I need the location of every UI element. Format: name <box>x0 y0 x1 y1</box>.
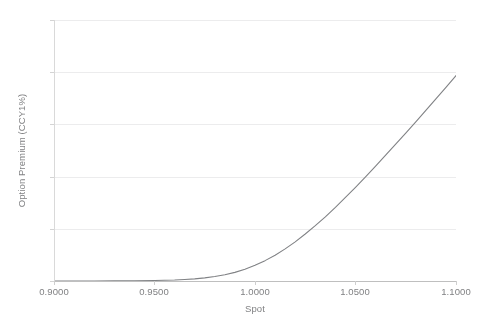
option-premium-chart: 0%2%4%6%8%10%0.90000.95001.00001.05001.1… <box>0 0 478 327</box>
plot-area <box>54 20 456 281</box>
x-tick-label: 1.1000 <box>416 286 478 297</box>
x-tick-mark <box>154 281 155 285</box>
x-axis-title: Spot <box>54 303 456 314</box>
y-tick-mark <box>50 229 54 230</box>
y-tick-mark <box>50 124 54 125</box>
y-tick-mark <box>50 20 54 21</box>
y-axis-line <box>54 20 55 282</box>
x-tick-label: 0.9000 <box>14 286 94 297</box>
x-tick-mark <box>54 281 55 285</box>
x-tick-label: 0.9500 <box>114 286 194 297</box>
x-tick-mark <box>255 281 256 285</box>
x-tick-label: 1.0500 <box>315 286 395 297</box>
x-tick-mark <box>355 281 356 285</box>
premium-curve <box>54 20 456 281</box>
y-tick-mark <box>50 72 54 73</box>
y-tick-mark <box>50 177 54 178</box>
y-axis-title: Option Premium (CCY1%) <box>16 20 30 281</box>
x-tick-mark <box>456 281 457 285</box>
x-tick-label: 1.0000 <box>215 286 295 297</box>
